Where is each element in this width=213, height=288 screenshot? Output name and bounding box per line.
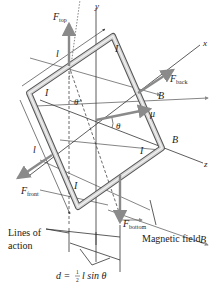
- theta-label-1: θ: [74, 97, 79, 107]
- length-label-top: l: [56, 48, 59, 59]
- y-axis-label: y: [94, 1, 99, 11]
- theta-label-2: θ: [116, 121, 121, 131]
- length-dimensions: [20, 29, 105, 214]
- current-label-1: I: [114, 43, 119, 54]
- lines-of-action-label-1: Lines of: [8, 227, 42, 238]
- b-label-3: B: [200, 234, 206, 245]
- current-label-2: I: [44, 87, 49, 98]
- f-back-arrow: [138, 70, 173, 93]
- z-axis-label: z: [203, 159, 208, 169]
- svg-text:d =: d =: [56, 270, 70, 281]
- svg-text:1: 1: [76, 269, 79, 275]
- b-label-2: B: [172, 134, 178, 145]
- b-label-1: B: [158, 90, 164, 101]
- distance-formula: d = 1 2 l sin θ: [56, 269, 106, 283]
- magnetic-field-label: Magnetic field: [142, 233, 201, 244]
- svg-text:2: 2: [76, 277, 79, 283]
- current-label-4: I: [139, 145, 144, 156]
- length-label-left: l: [33, 144, 36, 155]
- svg-text:l sin θ: l sin θ: [82, 270, 106, 281]
- mu-arrow: [96, 109, 150, 120]
- z-axis: [40, 100, 203, 163]
- f-front-arrow: [18, 155, 52, 178]
- f-top-label: Ftop: [52, 11, 67, 23]
- lines-of-action-label-2: action: [8, 240, 32, 251]
- f-front-label: Ffront: [20, 185, 39, 197]
- f-back-label: Fback: [169, 73, 187, 85]
- lines-of-action: [46, 200, 156, 272]
- mu-label: μ: [149, 108, 155, 119]
- x-axis-label: x: [202, 38, 207, 48]
- current-label-3: I: [73, 180, 78, 191]
- magnetic-torque-diagram: Ftop y x z Fback Ffront Fbottom B B B μ …: [0, 0, 213, 288]
